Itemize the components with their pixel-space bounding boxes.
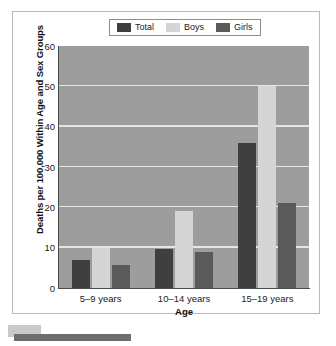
x-axis-tick-labels: 5–9 years10–14 years15–19 years: [59, 293, 309, 304]
bar-girls-0: [112, 265, 130, 288]
x-axis-title: Age: [59, 306, 309, 317]
legend-swatch-boys: [166, 23, 180, 32]
bar-boys-2: [258, 86, 276, 288]
bar-boys-1: [175, 211, 193, 288]
legend-label-total: Total: [135, 23, 154, 32]
legend-item-boys: Boys: [166, 23, 204, 32]
footer-bar-decoration: [14, 334, 131, 341]
chart-plot-area: [59, 46, 309, 288]
y-tick-label: 20: [27, 203, 55, 213]
y-tick-label: 60: [27, 41, 55, 51]
bar-total-1: [155, 249, 173, 288]
y-tick-label: 30: [27, 162, 55, 172]
y-tick-label: 0: [27, 283, 55, 293]
y-axis-tick-labels: 0102030405060: [27, 46, 55, 288]
bar-total-2: [238, 143, 256, 288]
bar-total-0: [72, 260, 90, 288]
y-axis-line: [58, 46, 59, 289]
legend-label-boys: Boys: [184, 23, 204, 32]
legend-item-girls: Girls: [216, 23, 253, 32]
chart-legend: Total Boys Girls: [109, 19, 261, 36]
x-tick-label: 15–19 years: [226, 293, 309, 304]
bar-boys-0: [92, 248, 110, 288]
x-tick-label: 5–9 years: [59, 293, 142, 304]
y-tick-label: 50: [27, 82, 55, 92]
y-tick-label: 40: [27, 122, 55, 132]
y-tick-label: 10: [27, 243, 55, 253]
x-axis-line: [58, 288, 310, 289]
legend-item-total: Total: [117, 23, 154, 32]
bar-girls-2: [278, 203, 296, 288]
x-tick-label: 10–14 years: [142, 293, 225, 304]
chart-figure-frame: Total Boys Girls Deaths per 100,000 With…: [12, 11, 320, 314]
bar-girls-1: [195, 252, 213, 288]
legend-swatch-total: [117, 23, 131, 32]
legend-swatch-girls: [216, 23, 230, 32]
legend-label-girls: Girls: [234, 23, 253, 32]
